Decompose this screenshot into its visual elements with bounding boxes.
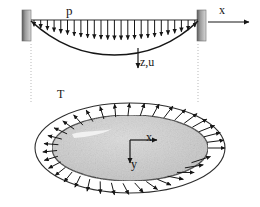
membrane-y-axis-label: y (131, 158, 137, 170)
engineering-figure: p x z,u T x y (0, 0, 260, 207)
beam-diagram (22, 10, 249, 68)
fixed-support-right (197, 10, 206, 41)
membrane-tension-label: T (57, 88, 64, 100)
membrane-x-axis-label: x (146, 131, 152, 143)
load-label-p: p (66, 4, 73, 17)
beam-deflection-label: z,u (140, 56, 154, 68)
beam-x-axis-label: x (219, 4, 225, 16)
fixed-support-left (22, 10, 31, 41)
distributed-load-arrows (34, 20, 195, 40)
figure-canvas (0, 0, 260, 207)
membrane-diagram (35, 103, 225, 195)
